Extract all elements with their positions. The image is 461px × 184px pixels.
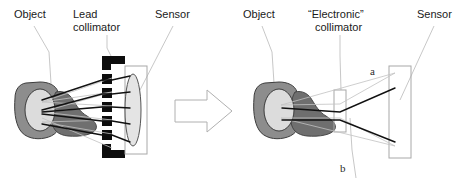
electronic-collimator-right	[334, 90, 346, 132]
diagram-canvas: Object Lead collimator Sensor	[0, 0, 461, 184]
collimator-leader-line-right	[340, 35, 341, 90]
ray-b-leader-line	[350, 118, 356, 178]
label-ray-b: b	[340, 162, 346, 174]
lead-block-bottom	[102, 144, 125, 158]
label-sensor-left: Sensor	[155, 8, 190, 20]
figure-root: Object Lead collimator Sensor	[0, 0, 461, 184]
transition-arrow-group	[175, 90, 232, 132]
label-ray-a: a	[370, 65, 375, 77]
lead-block-top	[102, 56, 125, 70]
sensor-leader-line-left	[140, 26, 173, 90]
lead-block-1	[102, 74, 112, 84]
label-lead-collimator-line1: Lead	[73, 8, 97, 20]
right-arrow-icon	[175, 90, 232, 132]
label-sensor-right: Sensor	[417, 8, 452, 20]
label-electronic-collimator-line1: “Electronic”	[308, 8, 364, 20]
label-object-left: Object	[14, 8, 46, 20]
collimator-leader-line-left	[107, 35, 112, 58]
label-object-right: Object	[243, 8, 275, 20]
object-core-right	[264, 89, 294, 131]
right-panel-group: Object “Electronic” collimator Sensor a …	[243, 8, 452, 178]
label-electronic-collimator-line2: collimator	[315, 21, 362, 33]
sensor-detector-left	[125, 74, 141, 146]
object-core-left	[25, 89, 55, 131]
sensor-leader-line-right	[400, 26, 434, 100]
label-lead-collimator-line2: collimator	[73, 21, 120, 33]
left-panel-group: Object Lead collimator Sensor	[14, 8, 190, 158]
